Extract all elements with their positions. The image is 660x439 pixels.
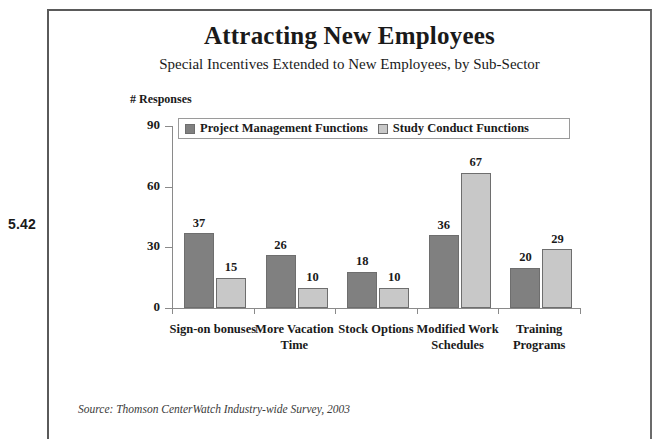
y-axis-tick: 30 [165,247,172,248]
legend-entry[interactable]: Project Management Functions [185,121,368,136]
chart-title: Attracting New Employees [47,22,652,50]
bar-value-label: 10 [298,271,328,284]
bar[interactable] [510,268,540,308]
bar-value-label: 37 [184,217,214,230]
bar-value-label: 26 [266,239,296,252]
y-axis-tick: 60 [165,187,172,188]
plot-area: 03060903715Sign-on bonuses2610More Vacat… [172,126,580,308]
bar-value-label: 10 [379,271,409,284]
x-axis-tick [254,308,255,314]
legend-swatch-icon [378,124,388,134]
x-axis-tick [498,308,499,314]
source-note: Source: Thomson CenterWatch Industry-wid… [78,403,350,415]
bar[interactable] [266,255,296,308]
x-axis-category-label: Training Programs [491,322,587,354]
bar[interactable] [461,173,491,308]
y-axis-tick-label: 60 [147,178,160,194]
bar-group: 1810 [343,126,417,308]
bar-group: 2610 [262,126,336,308]
legend-label: Project Management Functions [200,121,368,136]
x-axis-tick [417,308,418,314]
legend-label: Study Conduct Functions [393,121,529,136]
bar-value-label: 20 [510,251,540,264]
bar-value-label: 18 [347,255,377,268]
bar-value-label: 29 [542,233,572,246]
bar-group: 2029 [506,126,580,308]
bar-value-label: 36 [429,219,459,232]
y-axis-tick: 0 [165,308,172,309]
y-axis-line [172,126,173,308]
y-axis-tick-label: 30 [147,238,160,254]
bar-value-label: 15 [216,261,246,274]
bar[interactable] [184,233,214,308]
x-axis-tick [172,308,173,314]
bar[interactable] [298,288,328,308]
chart-legend: Project Management FunctionsStudy Conduc… [178,118,570,139]
bar-value-label: 67 [461,156,491,169]
bar[interactable] [429,235,459,308]
bar[interactable] [347,272,377,308]
y-axis-tick-label: 0 [154,299,161,315]
figure-number: 5.42 [8,216,36,232]
chart-subtitle: Special Incentives Extended to New Emplo… [47,56,652,73]
x-axis-line [172,308,580,309]
bar[interactable] [379,288,409,308]
y-axis-tick: 90 [165,126,172,127]
y-axis-title: # Responses [130,92,192,107]
y-axis-tick-label: 90 [147,117,160,133]
legend-swatch-icon [185,124,195,134]
legend-entry[interactable]: Study Conduct Functions [378,121,529,136]
bar[interactable] [216,278,246,308]
bar-group: 3715 [180,126,254,308]
bar[interactable] [542,249,572,308]
x-axis-tick [580,308,581,314]
bar-group: 3667 [425,126,499,308]
x-axis-tick [335,308,336,314]
